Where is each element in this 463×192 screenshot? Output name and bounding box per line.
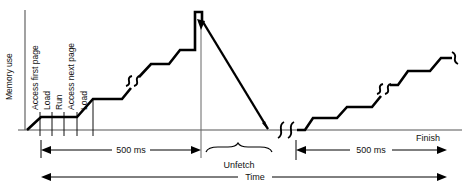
label-run: Run [54,94,64,110]
break-symbol-3 [377,84,391,94]
unfetch-brace [206,143,272,152]
label-access-first-page: Access first page [30,45,40,110]
dim-right-label: 500 ms [356,145,386,155]
y-axis-label: Memory use [4,53,14,100]
curve-segment-peak [139,12,202,77]
event-label-group: Access first page Load Run Access next p… [30,43,89,110]
memory-use-time-chart: Memory use Access first page Load Run Ac… [0,0,463,192]
unfetch-brace-group: Unfetch [206,143,272,170]
dim-right-arrow-end [437,146,447,154]
time-arrow-left [41,173,51,181]
axis-group [18,10,462,130]
finish-label: Finish [416,133,440,143]
curve-segment-second-steps-a [297,96,381,130]
x-axis-label: Time [245,172,265,182]
label-access-next-page: Access next page [66,43,76,110]
break-symbol-1 [126,76,140,86]
peak-marker [197,19,205,158]
dim-left-arrow-start [41,146,51,154]
time-arrow-right [437,173,447,181]
label-load-1: Load [42,91,52,110]
curve-segment-unfetch-ramp [203,22,268,129]
curve-end-break [452,52,458,64]
dimension-500ms-left: 500 ms [41,140,201,158]
dim-right-arrow-start [296,146,306,154]
time-axis-group: Time [41,172,447,182]
dim-left-label: 500 ms [116,145,146,155]
memory-curve [27,12,458,138]
dim-left-arrow-end [191,146,201,154]
dimension-500ms-right: 500 ms Finish [296,133,447,160]
chart-svg: Memory use Access first page Load Run Ac… [0,0,463,192]
curve-segment-second-steps-b [390,58,452,85]
unfetch-label: Unfetch [223,160,254,170]
